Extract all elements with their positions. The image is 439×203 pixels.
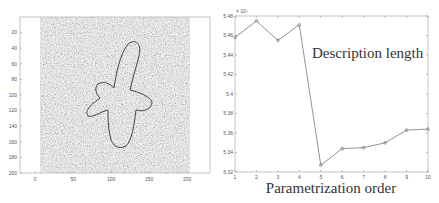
chart-y-axis: 5.325.345.365.385.45.425.445.465.48 [223,13,428,175]
line-chart-panel: × 10⁴ 5.325.345.365.385.45.425.445.465.4… [223,8,431,196]
y-tick-label: 100 [9,92,18,98]
figure: 20406080100120140160180200 050100150200 … [0,0,439,203]
y-tick-label: 5.46 [223,32,233,38]
x-tick-label: 150 [145,176,154,182]
y-tick-label: 80 [11,76,17,82]
y-tick-label: 40 [11,45,17,51]
y-tick-label: 5.38 [223,110,233,116]
chart-x-axis: 12345678910 [234,16,431,180]
x-tick-label: 50 [70,176,76,182]
x-tick-label: 10 [425,174,431,180]
noise-image [40,17,190,173]
x-tick-label: 100 [107,176,116,182]
y-tick-label: 180 [9,154,18,160]
y-tick-label: 200 [9,170,18,176]
y-tick-label: 160 [9,139,18,145]
description-length-line [235,21,428,165]
y-tick-label: 140 [9,123,18,129]
y-tick-label: 20 [11,29,17,35]
x-axis-label: Parametrization order [266,180,396,196]
y-tick-label: 5.42 [223,71,233,77]
chart-annotation: Description length [312,45,424,61]
x-tick-label: 0 [34,176,37,182]
y-multiplier-label: × 10⁴ [236,8,248,14]
y-tick-label: 5.44 [223,52,233,58]
x-tick-label: 200 [183,176,192,182]
image-panel: 20406080100120140160180200 050100150200 [9,17,210,182]
chart-frame [235,16,428,172]
y-tick-label: 5.34 [223,149,233,155]
y-tick-label: 5.4 [226,91,233,97]
data-point-markers [234,19,430,166]
y-tick-label: 120 [9,107,18,113]
x-tick-label: 9 [405,174,408,180]
y-tick-label: 60 [11,61,17,67]
y-tick-label: 5.32 [223,169,233,175]
x-tick-label: 2 [255,174,258,180]
y-tick-label: 5.36 [223,130,233,136]
y-tick-label: 5.48 [223,13,233,19]
x-tick-label: 1 [234,174,237,180]
